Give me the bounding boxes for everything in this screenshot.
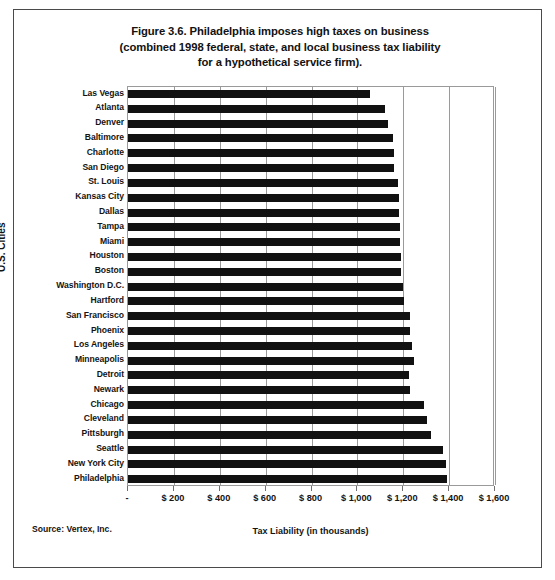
- bar-row: [128, 294, 495, 309]
- y-axis-title: U.S. Cities: [0, 223, 7, 272]
- x-tickmark-1400: [448, 486, 449, 491]
- bar: [128, 475, 447, 483]
- y-axis-label-los-angeles: Los Angeles: [30, 339, 124, 349]
- bar-row: [128, 443, 495, 458]
- y-axis-label-phoenix: Phoenix: [30, 325, 124, 335]
- y-axis-label-baltimore: Baltimore: [30, 132, 124, 142]
- y-axis-label-denver: Denver: [30, 117, 124, 127]
- bar: [128, 134, 393, 142]
- bar: [128, 253, 401, 261]
- y-axis-label-st-louis: St. Louis: [30, 176, 124, 186]
- y-axis-label-san-diego: San Diego: [30, 162, 124, 172]
- x-tick-label-600: $ 600: [253, 493, 276, 503]
- y-axis-label-las-vegas: Las Vegas: [30, 88, 124, 98]
- bar-row: [128, 265, 495, 280]
- y-axis-label-detroit: Detroit: [30, 369, 124, 379]
- y-axis-label-atlanta: Atlanta: [30, 102, 124, 112]
- bar-row: [128, 191, 495, 206]
- x-tickmark-200: [173, 486, 174, 491]
- bar: [128, 179, 398, 187]
- bar: [128, 342, 412, 350]
- title-line-3: for a hypothetical service firm).: [60, 55, 500, 71]
- y-axis-label-washington-d-c: Washington D.C.: [30, 280, 124, 290]
- x-tick-label-1600: $ 1,600: [479, 493, 510, 503]
- y-axis-label-houston: Houston: [30, 250, 124, 260]
- y-axis-label-tampa: Tampa: [30, 221, 124, 231]
- title-line-1: Figure 3.6. Philadelphia imposes high ta…: [60, 24, 500, 40]
- figure-page: Figure 3.6. Philadelphia imposes high ta…: [0, 0, 555, 580]
- y-axis-label-newark: Newark: [30, 384, 124, 394]
- x-tick-label-1200: $ 1,200: [387, 493, 418, 503]
- bar-row: [128, 176, 495, 191]
- bar: [128, 401, 424, 409]
- source-note: Source: Vertex, Inc.: [32, 524, 112, 534]
- x-tickmark-1600: [494, 486, 495, 491]
- y-axis-label-seattle: Seattle: [30, 443, 124, 453]
- bar: [128, 223, 400, 231]
- bar: [128, 446, 443, 454]
- x-tick-label-200: $ 200: [161, 493, 184, 503]
- y-axis-label-minneapolis: Minneapolis: [30, 354, 124, 364]
- gridline-1600: [495, 87, 496, 485]
- bar: [128, 283, 403, 291]
- bar-row: [128, 309, 495, 324]
- y-axis-label-dallas: Dallas: [30, 206, 124, 216]
- bar: [128, 416, 427, 424]
- bar-row: [128, 131, 495, 146]
- bar-row: [128, 368, 495, 383]
- x-axis-ticks: -$ 200$ 400$ 600$ 800$ 1,000$ 1,200$ 1,4…: [127, 486, 494, 512]
- bar: [128, 386, 410, 394]
- bar-row: [128, 398, 495, 413]
- x-tick-label-0: -: [125, 493, 128, 503]
- bar-row: [128, 413, 495, 428]
- y-axis-label-san-francisco: San Francisco: [30, 310, 124, 320]
- title-line-2: (combined 1998 federal, state, and local…: [60, 40, 500, 56]
- y-axis-label-kansas-city: Kansas City: [30, 191, 124, 201]
- y-axis-label-charlotte: Charlotte: [30, 147, 124, 157]
- bar: [128, 164, 394, 172]
- y-axis-label-hartford: Hartford: [30, 295, 124, 305]
- bar: [128, 327, 410, 335]
- bar-series: [128, 87, 493, 485]
- x-tick-label-1400: $ 1,400: [433, 493, 464, 503]
- bar-row: [128, 339, 495, 354]
- bar: [128, 371, 409, 379]
- x-tickmark-600: [265, 486, 266, 491]
- bar: [128, 431, 431, 439]
- bar: [128, 90, 370, 98]
- x-axis-title: Tax Liability (in thousands): [127, 526, 494, 536]
- bar-row: [128, 383, 495, 398]
- x-tick-label-400: $ 400: [207, 493, 230, 503]
- bar: [128, 238, 400, 246]
- y-axis-label-miami: Miami: [30, 236, 124, 246]
- bar-row: [128, 161, 495, 176]
- y-axis-label-chicago: Chicago: [30, 399, 124, 409]
- bar-row: [128, 235, 495, 250]
- bar: [128, 460, 446, 468]
- page-title: Figure 3.6. Philadelphia imposes high ta…: [60, 24, 500, 71]
- x-tickmark-400: [219, 486, 220, 491]
- bar: [128, 209, 399, 217]
- bar-row: [128, 250, 495, 265]
- plot-area: [127, 86, 494, 486]
- bar: [128, 194, 399, 202]
- bar-row: [128, 220, 495, 235]
- y-axis-label-new-york-city: New York City: [30, 458, 124, 468]
- bar: [128, 357, 414, 365]
- x-tickmark-0: [127, 486, 128, 491]
- x-tickmark-1200: [402, 486, 403, 491]
- bar-row: [128, 117, 495, 132]
- y-axis-tick-labels: Las VegasAtlantaDenverBaltimoreCharlotte…: [30, 86, 124, 486]
- y-axis-label-philadelphia: Philadelphia: [30, 473, 124, 483]
- bar: [128, 120, 388, 128]
- y-axis-label-cleveland: Cleveland: [30, 413, 124, 423]
- bar-row: [128, 428, 495, 443]
- bar: [128, 149, 394, 157]
- bar-row: [128, 146, 495, 161]
- bar-row: [128, 102, 495, 117]
- bar-row: [128, 457, 495, 472]
- y-axis-label-pittsburgh: Pittsburgh: [30, 428, 124, 438]
- x-tickmark-1000: [356, 486, 357, 491]
- y-axis-label-boston: Boston: [30, 265, 124, 275]
- bar-row: [128, 87, 495, 102]
